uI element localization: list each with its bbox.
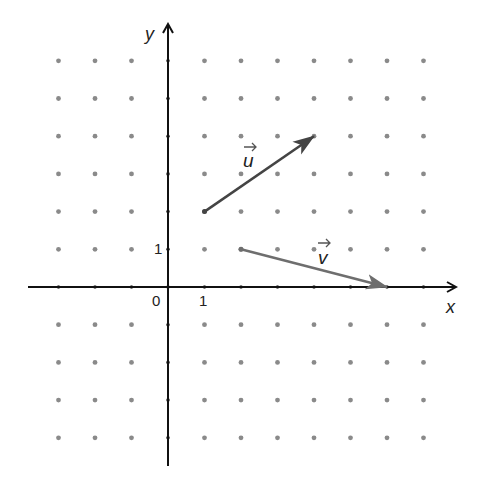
- grid-dot: [385, 134, 390, 139]
- grid-dot: [239, 172, 244, 177]
- grid-dot: [421, 96, 426, 101]
- grid-dot: [202, 322, 207, 327]
- grid-dot: [93, 360, 98, 365]
- vector-v-label: v: [318, 239, 330, 268]
- grid-dot: [421, 247, 426, 252]
- grid-dot: [129, 96, 134, 101]
- grid-dot: [275, 360, 280, 365]
- grid-dot: [348, 209, 353, 214]
- grid-dot: [202, 398, 207, 403]
- vector-u-label: u: [243, 143, 256, 171]
- grid-dot: [239, 435, 244, 440]
- grid-dot: [312, 322, 317, 327]
- grid-dot: [56, 96, 61, 101]
- grid-dot: [129, 58, 134, 63]
- grid-dot: [312, 58, 317, 63]
- grid-dot: [93, 96, 98, 101]
- grid-dot: [421, 398, 426, 403]
- grid-dot: [93, 398, 98, 403]
- grid-dot: [421, 134, 426, 139]
- grid-dot: [56, 58, 61, 63]
- grid-dot: [56, 398, 61, 403]
- grid-dot: [56, 134, 61, 139]
- grid-dot: [129, 247, 134, 252]
- grid-dot: [202, 360, 207, 365]
- grid-dot: [56, 172, 61, 177]
- grid-dot: [385, 435, 390, 440]
- grid-dot: [202, 58, 207, 63]
- grid-dot: [312, 209, 317, 214]
- grid-dot: [202, 172, 207, 177]
- grid-dot: [239, 360, 244, 365]
- grid-dot: [93, 172, 98, 177]
- grid-dot: [202, 96, 207, 101]
- grid-dot: [348, 435, 353, 440]
- grid-dot: [348, 360, 353, 365]
- grid-dot: [421, 435, 426, 440]
- grid-dot: [129, 360, 134, 365]
- grid-dot: [93, 134, 98, 139]
- grid-dot: [56, 209, 61, 214]
- grid-dot: [129, 322, 134, 327]
- grid-dot: [56, 322, 61, 327]
- grid-dot: [421, 209, 426, 214]
- grid-dot: [275, 96, 280, 101]
- grid-dot: [239, 134, 244, 139]
- grid-dot: [239, 398, 244, 403]
- x-axis-label: x: [445, 297, 456, 317]
- y-axis-label: y: [143, 24, 155, 44]
- vector-u: [205, 136, 315, 211]
- grid-dot: [202, 134, 207, 139]
- grid-dot: [348, 322, 353, 327]
- grid-dot: [385, 96, 390, 101]
- grid-dot: [385, 360, 390, 365]
- grid-dot: [93, 209, 98, 214]
- coordinate-plane: x y 0 1 1 u v: [0, 0, 482, 484]
- grid-dot: [348, 172, 353, 177]
- grid-dot: [421, 360, 426, 365]
- grid-dot: [239, 322, 244, 327]
- origin-label: 0: [152, 292, 160, 309]
- grid-dot: [56, 435, 61, 440]
- grid-dot: [348, 96, 353, 101]
- grid-dot: [385, 58, 390, 63]
- grid-dot: [348, 134, 353, 139]
- grid-dot: [275, 398, 280, 403]
- grid-dot: [93, 247, 98, 252]
- grid-dot: [275, 58, 280, 63]
- grid-dot: [275, 435, 280, 440]
- grid-dot: [312, 360, 317, 365]
- grid-dot: [93, 435, 98, 440]
- grid-dot: [312, 247, 317, 252]
- grid-dot: [93, 58, 98, 63]
- grid-dot: [129, 172, 134, 177]
- vector-v-start-point: [239, 247, 244, 252]
- grid-dot: [312, 398, 317, 403]
- svg-text:u: u: [243, 150, 254, 171]
- grid-dot: [421, 58, 426, 63]
- grid-dot: [56, 247, 61, 252]
- grid-dot: [202, 247, 207, 252]
- x-tick-label-1: 1: [199, 292, 207, 309]
- grid-dot: [129, 134, 134, 139]
- vector-v: [241, 249, 387, 287]
- grid-dot: [275, 172, 280, 177]
- svg-text:v: v: [318, 247, 329, 268]
- grid-dot: [56, 360, 61, 365]
- grid-dot: [421, 322, 426, 327]
- grid-dot: [312, 435, 317, 440]
- grid-dot: [129, 435, 134, 440]
- grid-dot: [239, 96, 244, 101]
- grid-dot: [385, 172, 390, 177]
- grid-dot: [385, 398, 390, 403]
- vector-u-start-point: [202, 209, 207, 214]
- grid-dot: [385, 209, 390, 214]
- grid-dot: [202, 435, 207, 440]
- grid-dot: [348, 398, 353, 403]
- grid-dot: [275, 247, 280, 252]
- grid-dot: [239, 209, 244, 214]
- arrow-over-v-icon: [318, 239, 330, 247]
- grid-dot: [275, 209, 280, 214]
- grid-dot: [275, 322, 280, 327]
- grid-dot: [275, 134, 280, 139]
